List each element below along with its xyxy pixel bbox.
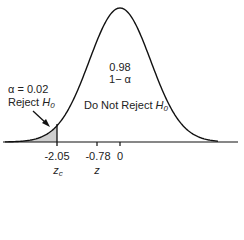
zc-label: zc (53, 164, 63, 176)
critical-value-label: -2.05 (44, 150, 69, 162)
do-not-reject-label: Do Not Reject H0 (84, 99, 168, 111)
z-label: z (94, 164, 100, 176)
reject-label: Reject H0 (8, 96, 55, 108)
alpha-label: α = 0.02 (8, 83, 48, 95)
test-statistic-label: -0.78 (85, 150, 110, 162)
zero-label: 0 (117, 150, 123, 162)
confidence-value: 0.98 (109, 61, 130, 73)
one-minus-alpha: 1− α (109, 73, 131, 85)
